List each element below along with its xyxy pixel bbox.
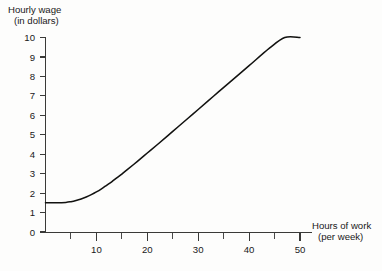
y-tick-label-2: 2 — [30, 188, 35, 199]
wage-hours-chart: Hourly wage (in dollars) Hours of work (… — [0, 0, 382, 271]
y-tick-label-7: 7 — [30, 90, 35, 101]
y-tick-label-6: 6 — [30, 110, 35, 121]
x-tick-label-30: 30 — [193, 244, 204, 255]
x-axis-ticks — [71, 233, 300, 241]
x-axis-title-line2: (per week) — [318, 231, 363, 242]
y-tick-label-0: 0 — [30, 227, 35, 238]
y-tick-label-4: 4 — [30, 149, 36, 160]
x-tick-label-50: 50 — [295, 244, 306, 255]
y-tick-label-3: 3 — [30, 168, 35, 179]
wage-curve-line — [46, 37, 301, 203]
y-tick-label-5: 5 — [30, 129, 35, 140]
y-tick-label-1: 1 — [30, 207, 35, 218]
y-axis-ticks — [40, 38, 46, 233]
x-tick-label-40: 40 — [244, 244, 255, 255]
y-axis-title-line1: Hourly wage — [8, 4, 61, 15]
x-tick-label-10: 10 — [91, 244, 102, 255]
y-axis-title-line2: (in dollars) — [14, 15, 59, 26]
x-axis-title-line1: Hours of work — [312, 220, 371, 231]
y-tick-label-8: 8 — [30, 71, 35, 82]
y-tick-label-10: 10 — [24, 32, 35, 43]
y-tick-label-9: 9 — [30, 52, 35, 63]
x-tick-label-20: 20 — [142, 244, 153, 255]
chart-canvas: Hourly wage (in dollars) Hours of work (… — [0, 0, 382, 271]
